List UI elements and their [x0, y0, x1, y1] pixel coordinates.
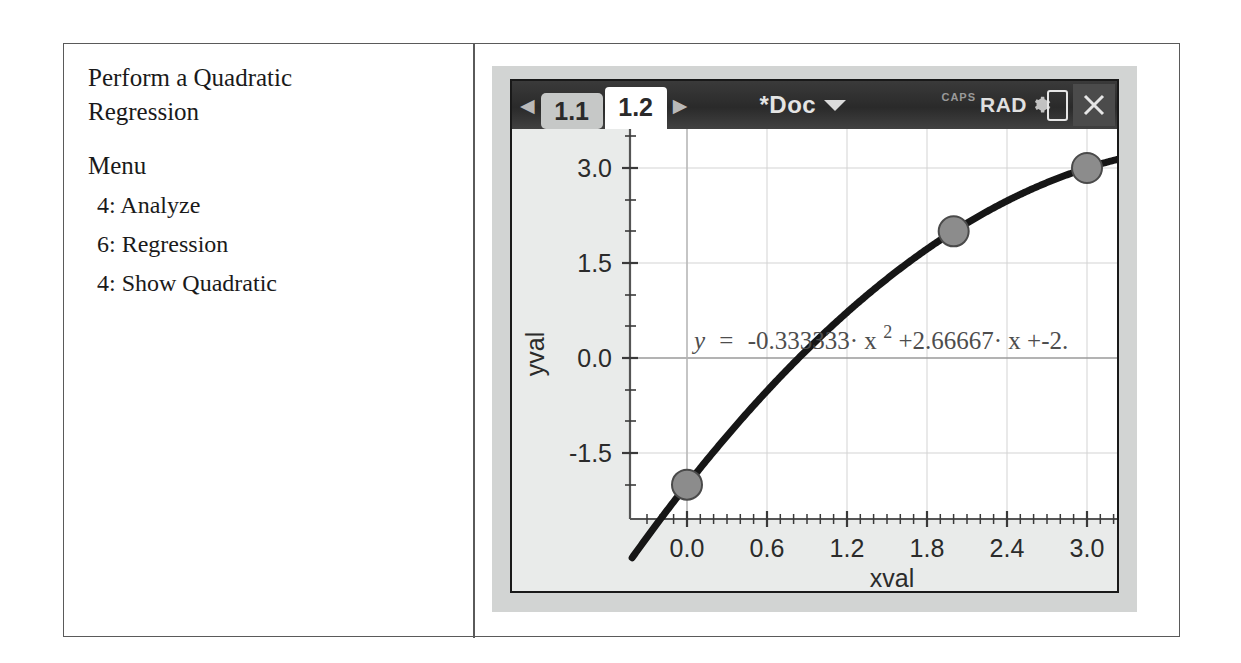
- y-tick-label-3: -1.5: [569, 439, 612, 467]
- close-button[interactable]: [1073, 84, 1115, 126]
- equation-lhs: y: [691, 327, 706, 354]
- instructions-panel: Perform a Quadratic Regression Menu 4: A…: [64, 44, 473, 638]
- equation-b-term: +2.66667· x: [898, 327, 1021, 354]
- angle-mode-indicator: RAD: [980, 93, 1027, 117]
- menu-heading: Menu: [88, 149, 473, 183]
- calculator-screen: ◀ 1.1 1.2 ▶ *Doc CAPS RAD: [510, 79, 1119, 593]
- previous-page-arrow-icon[interactable]: ◀: [515, 96, 540, 115]
- x-tick-label-2: 1.2: [830, 534, 865, 562]
- graph-area[interactable]: 3.0 1.5 0.0 -1.5 yval 0.0 0.6 1.2 1.8 2.…: [512, 129, 1117, 591]
- column-divider: [473, 44, 475, 638]
- equation-a-term: -0.333333· x: [748, 327, 878, 354]
- equation-c-term: +-2.: [1027, 327, 1068, 354]
- y-tick-label-1: 1.5: [577, 249, 612, 277]
- equation-exponent: 2: [883, 322, 892, 342]
- status-bar: ◀ 1.1 1.2 ▶ *Doc CAPS RAD: [512, 81, 1117, 129]
- menu-step-analyze: 4: Analyze: [88, 188, 473, 222]
- menu-step-show-quadratic: 4: Show Quadratic: [88, 266, 473, 300]
- data-point[interactable]: [672, 470, 702, 500]
- x-tick-label-0: 0.0: [670, 534, 705, 562]
- document-title-group[interactable]: *Doc: [664, 91, 941, 119]
- close-icon: [1081, 92, 1107, 118]
- data-point[interactable]: [939, 216, 969, 246]
- document-title: *Doc: [760, 91, 817, 119]
- x-tick-label-3: 1.8: [910, 534, 945, 562]
- data-point[interactable]: [1072, 153, 1102, 183]
- regression-plot[interactable]: 3.0 1.5 0.0 -1.5 yval 0.0 0.6 1.2 1.8 2.…: [512, 129, 1117, 591]
- instruction-title: Perform a Quadratic Regression: [88, 61, 388, 129]
- equation-equals: =: [719, 327, 733, 354]
- page-tab-1-1[interactable]: 1.1: [541, 93, 603, 129]
- battery-icon: [1047, 90, 1068, 121]
- page-tab-1-2[interactable]: 1.2: [605, 87, 667, 131]
- menu-step-regression: 6: Regression: [88, 227, 473, 261]
- caps-indicator: CAPS: [941, 91, 976, 103]
- content-frame: Perform a Quadratic Regression Menu 4: A…: [63, 43, 1180, 637]
- x-axis-label: xval: [870, 564, 914, 591]
- chevron-down-icon[interactable]: [824, 100, 846, 111]
- calculator-screenshot: ◀ 1.1 1.2 ▶ *Doc CAPS RAD: [492, 66, 1137, 612]
- x-tick-label-4: 2.4: [990, 534, 1025, 562]
- y-tick-label-2: 0.0: [577, 344, 612, 372]
- x-tick-label-1: 0.6: [750, 534, 785, 562]
- y-axis-label: yval: [521, 332, 549, 376]
- y-tick-label-0: 3.0: [577, 154, 612, 182]
- x-tick-label-5: 3.0: [1070, 534, 1105, 562]
